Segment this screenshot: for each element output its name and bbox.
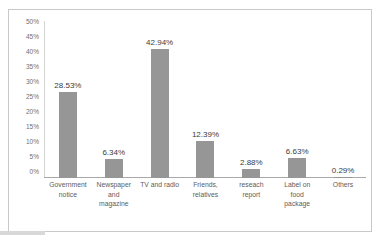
y-axis-tick-40: 40% [13, 48, 39, 56]
bar-value-label-6: 6.63% [286, 147, 309, 156]
category-label-2: Newspaperandmagazine [88, 180, 140, 209]
bar-1[interactable] [59, 92, 77, 178]
bar-value-label-2: 6.34% [102, 148, 125, 157]
y-axis-tick-5: 5% [13, 153, 39, 161]
bar-value-label-1: 28.53% [54, 81, 81, 90]
y-axis-tick-45: 45% [13, 33, 39, 41]
bar-5[interactable] [242, 169, 260, 178]
y-axis-tick-20: 20% [13, 108, 39, 116]
y-axis-tick-35: 35% [13, 63, 39, 71]
chart-card: 50%45%40%35%30%25%20%15%10%5%0% 28.53%6.… [8, 9, 372, 232]
category-label-line: report [225, 190, 277, 200]
bar-chart-plot: 50%45%40%35%30%25%20%15%10%5%0% 28.53%6.… [9, 10, 371, 231]
category-label-line: relatives [180, 190, 232, 200]
bar-group: 6.63% [274, 21, 320, 178]
bar-group: 42.94% [137, 21, 183, 178]
bar-4[interactable] [196, 141, 214, 178]
category-label-line: Government [42, 180, 94, 190]
bar-value-label-3: 42.94% [146, 38, 173, 47]
bar-group: 28.53% [45, 21, 91, 178]
bar-group: 12.39% [183, 21, 229, 178]
bar-6[interactable] [288, 158, 306, 178]
bar-group: 0.29% [320, 21, 366, 178]
y-axis-tick-labels: 50%45%40%35%30%25%20%15%10%5%0% [13, 22, 39, 172]
category-label-5: reseachreport [225, 180, 277, 199]
bar-value-label-7: 0.29% [332, 166, 355, 175]
category-label-line: TV and radio [134, 180, 186, 190]
category-label-line: Newspaper [88, 180, 140, 190]
y-axis-tick-0: 0% [13, 168, 39, 176]
bar-3[interactable] [151, 49, 169, 178]
category-label-3: TV and radio [134, 180, 186, 190]
y-axis-tick-30: 30% [13, 78, 39, 86]
y-axis-tick-15: 15% [13, 123, 39, 131]
category-label-4: Friends,relatives [180, 180, 232, 199]
y-axis-tick-10: 10% [13, 138, 39, 146]
bar-group: 2.88% [228, 21, 274, 178]
bottom-edge-artifact [0, 231, 45, 235]
category-label-line: magazine [88, 199, 140, 209]
category-label-line: Others [317, 180, 369, 190]
bar-value-label-4: 12.39% [192, 130, 219, 139]
category-label-6: Label onfoodpackage [271, 180, 323, 209]
bar-value-label-5: 2.88% [240, 158, 263, 167]
bar-7[interactable] [334, 177, 352, 178]
bars-area: 28.53%6.34%42.94%12.39%2.88%6.63%0.29% [45, 21, 366, 178]
category-label-line: notice [42, 190, 94, 200]
x-axis-category-labels: GovernmentnoticeNewspaperandmagazineTV a… [45, 180, 366, 230]
y-axis-tick-50: 50% [13, 18, 39, 26]
bar-2[interactable] [105, 159, 123, 178]
category-label-line: reseach [225, 180, 277, 190]
category-label-line: Friends, [180, 180, 232, 190]
category-label-line: Label on [271, 180, 323, 190]
y-axis-tick-25: 25% [13, 93, 39, 101]
category-label-1: Governmentnotice [42, 180, 94, 199]
category-label-line: package [271, 199, 323, 209]
bar-group: 6.34% [91, 21, 137, 178]
category-label-7: Others [317, 180, 369, 190]
category-label-line: and [88, 190, 140, 200]
category-label-line: food [271, 190, 323, 200]
